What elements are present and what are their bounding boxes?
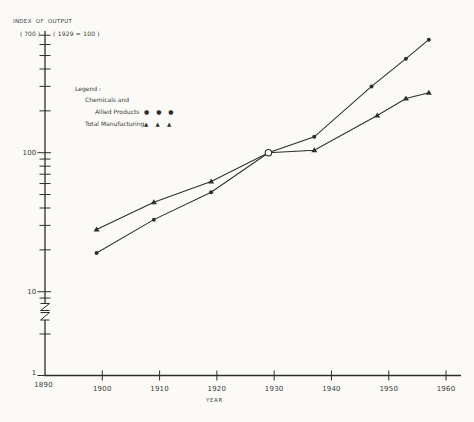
series-marker-circle-chemicals-and-allied-products [152, 218, 156, 222]
x-tick-label: 1960 [437, 385, 456, 393]
series-marker-triangle-total-manufacturing [426, 90, 432, 95]
axis-break-icon [41, 304, 50, 311]
x-tick-label: 1910 [150, 385, 169, 393]
series-marker-circle-chemicals-and-allied-products [312, 135, 316, 139]
x-tick-label: 1920 [208, 385, 227, 393]
series-marker-circle-chemicals-and-allied-products [370, 84, 374, 88]
series-line-chemicals-and-allied-products [97, 40, 429, 253]
series-marker-triangle-total-manufacturing [311, 147, 317, 152]
scanned-line-chart-page: INDEX OF OUTPUT ( 700 ) ( 1929 = 100 ) L… [0, 0, 474, 422]
chart-canvas: 10010118901900191019201930194019501960 [0, 0, 474, 422]
series-marker-circle-chemicals-and-allied-products [404, 57, 408, 61]
base-point-open-circle [265, 150, 271, 156]
x-tick-label: 1950 [379, 385, 398, 393]
x-tick-label: 1940 [322, 385, 341, 393]
y-tick-label: 100 [23, 149, 37, 157]
x-tick-label: 1890 [34, 381, 53, 389]
y-tick-label: 1 [32, 369, 37, 377]
axis-break-icon [41, 313, 50, 321]
series-marker-circle-chemicals-and-allied-products [95, 251, 99, 255]
series-marker-circle-chemicals-and-allied-products [209, 190, 213, 194]
series-marker-circle-chemicals-and-allied-products [427, 38, 431, 42]
series-marker-triangle-total-manufacturing [374, 113, 380, 118]
x-tick-label: 1900 [93, 385, 112, 393]
y-tick-label: 10 [27, 288, 36, 296]
x-tick-label: 1930 [265, 385, 284, 393]
series-line-total-manufacturing [97, 93, 429, 230]
